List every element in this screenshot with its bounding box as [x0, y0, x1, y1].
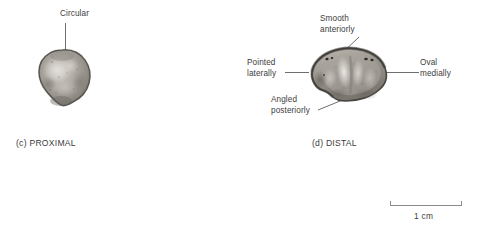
panel-caption-distal: (d) DISTAL [312, 138, 357, 148]
scale-bar-tick-right [461, 201, 462, 206]
leader-line-angled-posteriorly [0, 0, 485, 237]
scale-bar-line [390, 205, 462, 206]
specimen-distal-articular-surface [300, 42, 392, 106]
scale-bar-tick-left [390, 201, 391, 206]
scale-bar-label: 1 cm [414, 211, 433, 221]
anatomical-figure: Circular [0, 0, 485, 237]
